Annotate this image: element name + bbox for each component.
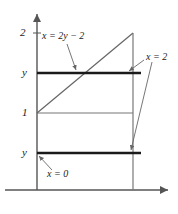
vertical-label-leader-lower bbox=[131, 62, 152, 150]
y-tick-label-one: 1 bbox=[22, 107, 28, 118]
y-tick-label-upper-y: y bbox=[22, 67, 27, 78]
axis-group bbox=[5, 14, 168, 190]
y-tick-label-two: 2 bbox=[20, 27, 26, 38]
vertical-equation-label: x = 2 bbox=[146, 52, 167, 62]
vertical-label-leader-upper bbox=[129, 60, 144, 71]
diagonal-equation-label: x = 2y − 2 bbox=[42, 31, 84, 41]
boundary-line-group bbox=[37, 33, 133, 190]
integration-region-figure: 2 y 1 y x = 2y − 2 x = 2 x = 0 bbox=[0, 0, 178, 214]
leader-line-group bbox=[39, 44, 152, 170]
y-tick-label-lower-y: y bbox=[22, 147, 27, 158]
diagonal-label-leader bbox=[67, 44, 76, 70]
origin-equation-label: x = 0 bbox=[47, 169, 68, 179]
